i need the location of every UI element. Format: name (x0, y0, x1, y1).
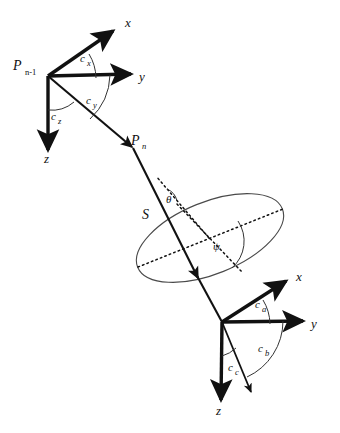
diagram-canvas: P n-1 x y z c x c y c z P n S θ ψ (0, 0, 340, 433)
cz-angle-label-subscript: z (57, 116, 62, 126)
cy-angle-label: c y (86, 94, 97, 110)
top-frame-y-label: y (137, 69, 145, 84)
lower-right-frame-group (221, 281, 303, 400)
cy-angle-arc (90, 75, 110, 119)
ca-angle-label-subscript: a (262, 304, 266, 314)
bottom-frame-vector-continuation (222, 322, 251, 392)
cy-angle-label-subscript: y (92, 100, 97, 110)
psi-angle-label: ψ (213, 240, 220, 252)
cz-angle-arc (48, 102, 74, 110)
top-origin-label-subscript: n-1 (25, 67, 36, 77)
bottom-frame-z-axis (221, 322, 222, 400)
bottom-frame-y-axis (222, 321, 303, 322)
cb-angle-label: c b (258, 342, 269, 358)
disc-surface-label: S (142, 207, 149, 222)
top-frame-x-label: x (124, 15, 131, 30)
bottom-frame-y-label: y (309, 316, 317, 331)
cx-angle-label-base: c (80, 52, 85, 64)
cz-angle-label-base: c (51, 110, 56, 122)
upper-left-frame-group (48, 31, 131, 150)
cz-angle-label: c z (51, 110, 62, 126)
top-frame-y-axis (48, 74, 131, 76)
bottom-frame-z-label: z (215, 403, 221, 418)
vector-segment-lower (196, 274, 222, 322)
ca-angle-label: c a (255, 298, 266, 314)
vector-segment-upper (48, 76, 132, 147)
top-origin-label-base: P (12, 58, 22, 73)
bottom-frame-x-axis (222, 281, 286, 322)
cc-angle-label: c c (228, 361, 239, 377)
ca-angle-label-base: c (255, 298, 260, 310)
vector-point-label-base: P (130, 133, 140, 148)
bottom-frame-x-label: x (295, 269, 302, 284)
disc-major-axis (138, 209, 283, 267)
cx-angle-label-subscript: x (86, 58, 91, 68)
top-frame-z-label: z (43, 151, 49, 166)
diagram-svg: P n-1 x y z c x c y c z P n S θ ψ (0, 0, 340, 433)
cc-angle-label-base: c (228, 361, 233, 373)
cc-angle-label-subscript: c (235, 367, 239, 377)
main-vector-group (48, 76, 222, 322)
cy-angle-label-base: c (86, 94, 91, 106)
psi-arc (232, 221, 244, 268)
inclined-disc-group (124, 175, 296, 300)
top-origin-label: P n-1 (12, 58, 36, 77)
cb-angle-label-subscript: b (265, 348, 269, 358)
vector-point-label-subscript: n (142, 141, 146, 151)
theta-angle-label: θ (166, 193, 172, 205)
cb-angle-label-base: c (258, 342, 263, 354)
